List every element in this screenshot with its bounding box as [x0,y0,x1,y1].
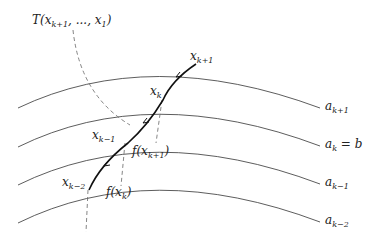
level-curve-a-k [18,114,320,147]
label-T: T(xk+1, ..., x1) [32,14,111,29]
label-x-k-minus-2: xk−2 [62,176,85,191]
label-a-k-plus-1: ak+1 [325,100,349,115]
label-x-k-plus-1: xk+1 [190,50,213,65]
label-x-k-minus-1: xk−1 [92,129,115,144]
label-x-k: xk [150,85,162,100]
arrow-icon [176,72,182,77]
dashed-drop-below [86,190,88,232]
level-curve-a-k-minus-2 [18,190,320,223]
label-a-k-equals-b: ak = b [325,138,362,153]
diagram-canvas: T(xk+1, ..., x1) xk+1 xk xk−1 xk−2 f(xk+… [0,0,378,236]
label-f-x-k: f(xk) [106,186,131,201]
diagram-svg [0,0,378,236]
dashed-trajectory-T [73,30,130,125]
dashed-drop-f-xk [121,143,125,186]
level-curve-a-k-plus-1 [18,77,320,109]
label-a-k-minus-1: ak−1 [325,176,349,191]
label-a-k-minus-2: ak−2 [325,214,349,229]
descent-path [89,64,196,190]
label-f-x-k-plus-1: f(xk+1) [132,145,169,160]
